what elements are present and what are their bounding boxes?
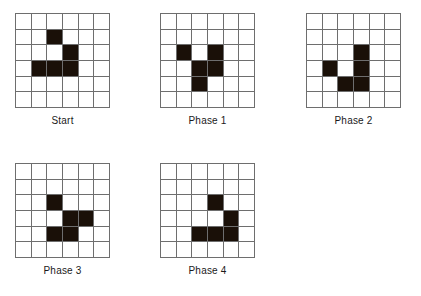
empty-cell	[79, 164, 95, 180]
empty-cell	[63, 164, 79, 180]
filled-cell	[224, 227, 240, 243]
grid-caption-phase-3: Phase 3	[44, 265, 82, 277]
empty-cell	[224, 45, 240, 61]
grid-phase-3	[15, 163, 110, 258]
empty-cell	[177, 242, 193, 258]
empty-cell	[177, 211, 193, 227]
empty-cell	[323, 45, 339, 61]
empty-cell	[338, 45, 354, 61]
filled-cell	[354, 77, 370, 93]
empty-cell	[177, 164, 193, 180]
empty-cell	[32, 30, 48, 46]
empty-cell	[224, 30, 240, 46]
empty-cell	[208, 164, 224, 180]
empty-cell	[94, 14, 110, 30]
empty-cell	[338, 14, 354, 30]
filled-cell	[338, 77, 354, 93]
empty-cell	[94, 180, 110, 196]
empty-cell	[323, 30, 339, 46]
empty-cell	[79, 30, 95, 46]
empty-cell	[161, 77, 177, 93]
empty-cell	[79, 242, 95, 258]
empty-cell	[239, 45, 255, 61]
grid-panel-phase-3: Phase 3	[15, 163, 110, 277]
empty-cell	[239, 61, 255, 77]
empty-cell	[63, 195, 79, 211]
empty-cell	[16, 61, 32, 77]
empty-cell	[177, 195, 193, 211]
empty-cell	[79, 77, 95, 93]
filled-cell	[354, 45, 370, 61]
empty-cell	[323, 92, 339, 108]
grid-caption-phase-2: Phase 2	[335, 115, 373, 127]
empty-cell	[192, 180, 208, 196]
empty-cell	[63, 30, 79, 46]
empty-cell	[32, 164, 48, 180]
empty-cell	[338, 61, 354, 77]
empty-cell	[323, 77, 339, 93]
empty-cell	[177, 61, 193, 77]
empty-cell	[192, 45, 208, 61]
filled-cell	[63, 227, 79, 243]
filled-cell	[47, 227, 63, 243]
empty-cell	[161, 195, 177, 211]
empty-cell	[370, 30, 386, 46]
empty-cell	[161, 242, 177, 258]
empty-cell	[94, 211, 110, 227]
grid-caption-phase-1: Phase 1	[189, 115, 227, 127]
empty-cell	[161, 61, 177, 77]
empty-cell	[224, 14, 240, 30]
empty-cell	[16, 45, 32, 61]
empty-cell	[79, 227, 95, 243]
empty-cell	[239, 180, 255, 196]
empty-cell	[161, 92, 177, 108]
empty-cell	[94, 164, 110, 180]
empty-cell	[177, 77, 193, 93]
empty-cell	[370, 61, 386, 77]
empty-cell	[94, 227, 110, 243]
empty-cell	[370, 92, 386, 108]
empty-cell	[208, 242, 224, 258]
empty-cell	[224, 195, 240, 211]
empty-cell	[370, 14, 386, 30]
empty-cell	[239, 164, 255, 180]
empty-cell	[32, 14, 48, 30]
empty-cell	[239, 30, 255, 46]
empty-cell	[32, 227, 48, 243]
empty-cell	[192, 164, 208, 180]
filled-cell	[63, 61, 79, 77]
empty-cell	[208, 77, 224, 93]
empty-cell	[192, 30, 208, 46]
grid-caption-phase-4: Phase 4	[189, 265, 227, 277]
filled-cell	[208, 45, 224, 61]
filled-cell	[47, 195, 63, 211]
empty-cell	[63, 180, 79, 196]
empty-cell	[370, 77, 386, 93]
empty-cell	[370, 45, 386, 61]
empty-cell	[177, 30, 193, 46]
empty-cell	[239, 242, 255, 258]
empty-cell	[239, 227, 255, 243]
empty-cell	[307, 77, 323, 93]
empty-cell	[79, 180, 95, 196]
filled-cell	[208, 227, 224, 243]
empty-cell	[239, 195, 255, 211]
empty-cell	[32, 211, 48, 227]
empty-cell	[338, 30, 354, 46]
empty-cell	[239, 14, 255, 30]
empty-cell	[224, 242, 240, 258]
empty-cell	[208, 92, 224, 108]
empty-cell	[354, 30, 370, 46]
empty-cell	[94, 195, 110, 211]
empty-cell	[79, 92, 95, 108]
empty-cell	[16, 227, 32, 243]
empty-cell	[79, 61, 95, 77]
empty-cell	[385, 77, 401, 93]
empty-cell	[94, 45, 110, 61]
empty-cell	[47, 180, 63, 196]
empty-cell	[161, 180, 177, 196]
empty-cell	[161, 164, 177, 180]
empty-cell	[16, 14, 32, 30]
empty-cell	[16, 30, 32, 46]
filled-cell	[47, 61, 63, 77]
